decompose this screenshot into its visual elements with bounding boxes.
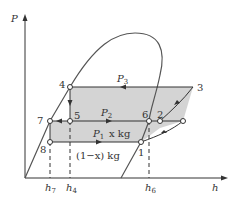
point-8 <box>48 140 53 145</box>
label-4: 4 <box>59 79 65 90</box>
label-2: 2 <box>157 109 163 120</box>
ph-diagram: P h 4 3 7 5 6 2 8 1 P3 P2 P1 x kg (1−x) … <box>0 0 237 202</box>
h6-label: h6 <box>145 182 156 195</box>
point-1 <box>139 140 144 145</box>
mass-x-label: x kg <box>109 128 131 139</box>
label-1: 1 <box>138 147 144 158</box>
point-7 <box>48 119 53 124</box>
label-6: 6 <box>142 109 148 120</box>
h-axis-arrow-icon <box>221 176 228 181</box>
p-axis-arrow-icon <box>23 14 28 21</box>
h-axis-label: h <box>212 182 218 193</box>
mass-1-x-label: (1−x) kg <box>76 150 120 161</box>
point-mix <box>181 119 186 124</box>
point-4 <box>68 85 73 90</box>
p3-label: P3 <box>116 73 128 86</box>
p-axis-label: P <box>10 13 18 24</box>
label-7: 7 <box>37 115 43 126</box>
label-8: 8 <box>40 144 46 155</box>
h4-label: h4 <box>66 182 77 195</box>
p3-region <box>70 87 193 121</box>
point-5 <box>68 119 73 124</box>
label-5: 5 <box>74 110 80 121</box>
h7-label: h7 <box>45 182 56 195</box>
label-3: 3 <box>197 82 203 93</box>
